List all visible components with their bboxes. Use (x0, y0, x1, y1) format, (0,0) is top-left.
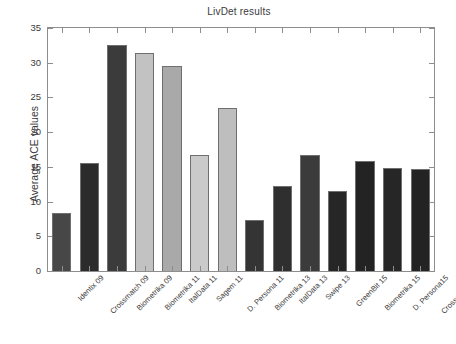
x-axis-tick (365, 266, 366, 271)
x-axis-tick (200, 266, 201, 271)
x-axis-tick-top (62, 28, 63, 33)
bar (383, 168, 402, 271)
chart-figure: LivDet results Average ACE values 051015… (0, 0, 456, 344)
y-axis-tick-label: 15 (30, 162, 41, 172)
x-axis-tick-top (365, 28, 366, 33)
bar (411, 169, 430, 271)
x-axis-tick (338, 266, 339, 271)
y-axis-tick-right (429, 63, 434, 64)
x-axis-tick (172, 266, 173, 271)
x-axis-tick-top (393, 28, 394, 33)
x-axis-tick (282, 266, 283, 271)
bar (162, 66, 181, 272)
y-axis-tick-label: 25 (30, 93, 41, 103)
y-axis-tick (48, 167, 53, 168)
plot-area (47, 27, 435, 272)
bar (300, 155, 319, 271)
y-axis-tick (48, 97, 53, 98)
bar (355, 161, 374, 271)
x-axis-tick (227, 266, 228, 271)
y-axis-tick (48, 63, 53, 64)
y-axis-tick-label: 20 (30, 127, 41, 137)
x-axis-tick (117, 266, 118, 271)
x-axis-tick (393, 266, 394, 271)
x-axis-tick (145, 266, 146, 271)
bar (273, 186, 292, 271)
y-axis-tick (48, 202, 53, 203)
x-axis-tick-top (282, 28, 283, 33)
x-axis-tick-top (172, 28, 173, 33)
x-axis-tick-top (117, 28, 118, 33)
x-axis-tick-top (145, 28, 146, 33)
x-axis-tick (255, 266, 256, 271)
x-axis-tick (310, 266, 311, 271)
y-axis-tick-label: 30 (30, 58, 41, 68)
x-axis-tick-top (89, 28, 90, 33)
bar (107, 45, 126, 271)
chart-title: LivDet results (0, 6, 456, 17)
bar (328, 191, 347, 271)
y-axis-tick-right (429, 132, 434, 133)
x-axis-tick (62, 266, 63, 271)
y-axis-tick (48, 132, 53, 133)
bar (135, 53, 154, 271)
y-axis-tick-right (429, 97, 434, 98)
x-axis-tick-top (310, 28, 311, 33)
y-axis-tick-label: 5 (36, 232, 41, 242)
x-axis-tick (89, 266, 90, 271)
x-axis-tick-top (338, 28, 339, 33)
x-axis-tick-label: GreenBit 15 (354, 274, 388, 308)
bar (52, 213, 71, 271)
y-axis-tick-labels: 05101520253035 (0, 27, 43, 272)
x-axis-tick (420, 266, 421, 271)
bar (245, 220, 264, 271)
y-axis-tick-label: 0 (36, 266, 41, 276)
x-axis-tick-top (200, 28, 201, 33)
x-axis-tick-top (420, 28, 421, 33)
y-axis-tick-label: 10 (30, 197, 41, 207)
y-axis-tick-right (429, 271, 434, 272)
y-axis-tick-right (429, 28, 434, 29)
y-axis-tick (48, 28, 53, 29)
x-axis-tick-label: Identix 09 (76, 274, 105, 303)
bar (80, 163, 99, 271)
y-axis-tick-label: 35 (30, 23, 41, 33)
bar (218, 108, 237, 271)
y-axis-tick-right (429, 167, 434, 168)
x-axis-tick-top (255, 28, 256, 33)
x-axis-tick-label: Sagem 11 (215, 274, 244, 303)
x-axis-tick-top (227, 28, 228, 33)
x-axis-tick-labels: Identix 09Crossmatch 09Biometrika 09Biom… (47, 274, 435, 344)
y-axis-tick (48, 271, 53, 272)
bar (190, 155, 209, 271)
